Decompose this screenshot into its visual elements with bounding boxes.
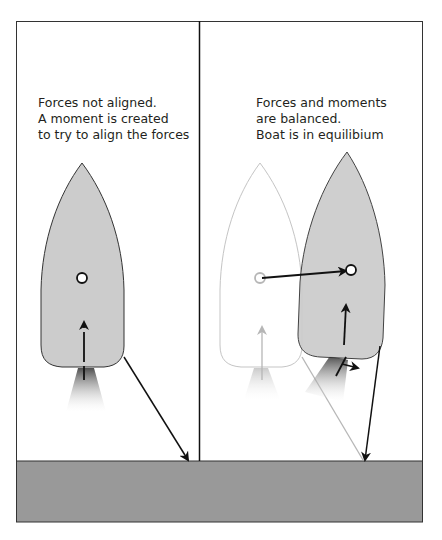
caption-line: are balanced. xyxy=(256,111,387,127)
caption-line: Forces and moments xyxy=(256,95,387,111)
caption-line: to try to align the forces xyxy=(38,127,189,143)
moved-center-of-mass-icon xyxy=(346,265,356,275)
caption-line: Boat is in equilibium xyxy=(256,127,387,143)
ground-surface xyxy=(17,461,423,522)
boat-force-diagram xyxy=(0,0,442,540)
center-of-mass-icon xyxy=(77,273,87,283)
caption-line: A moment is created xyxy=(38,111,189,127)
left-panel-caption: Forces not aligned. A moment is created … xyxy=(38,95,189,143)
right-panel-caption: Forces and moments are balanced. Boat is… xyxy=(256,95,387,143)
caption-line: Forces not aligned. xyxy=(38,95,189,111)
